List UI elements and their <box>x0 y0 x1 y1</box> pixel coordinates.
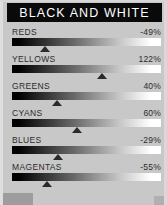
slider-label-blues: BLUES <box>12 135 42 145</box>
slider-row: CYANS60% <box>3 107 167 134</box>
slider-value-yellows[interactable]: 122% <box>138 54 161 64</box>
slider-thumb-cyans[interactable] <box>72 127 82 133</box>
slider-row: MAGENTAS-55% <box>3 161 167 188</box>
slider-value-reds[interactable]: -49% <box>140 27 161 37</box>
slider-value-magentas[interactable]: -55% <box>140 162 161 172</box>
slider-thumb-greens[interactable] <box>52 100 62 106</box>
slider-row-header: BLUES-29% <box>12 134 161 146</box>
black-and-white-adjustment-panel: BLACK AND WHITE REDS-49%YELLOWS122%GREEN… <box>0 0 167 205</box>
slider-track-cyans[interactable] <box>12 119 161 127</box>
slider-label-magentas: MAGENTAS <box>12 162 62 172</box>
slider-track-yellows[interactable] <box>12 65 161 73</box>
slider-label-yellows: YELLOWS <box>12 54 56 64</box>
slider-track-magentas[interactable] <box>12 173 161 181</box>
slider-thumb-reds[interactable] <box>40 46 50 52</box>
panel-header: BLACK AND WHITE <box>7 3 162 22</box>
slider-row: YELLOWS122% <box>3 53 167 80</box>
slider-row-header: REDS-49% <box>12 26 161 38</box>
slider-row-header: MAGENTAS-55% <box>12 161 161 173</box>
slider-row: REDS-49% <box>3 26 167 53</box>
panel-title: BLACK AND WHITE <box>19 6 149 20</box>
slider-thumb-magentas[interactable] <box>42 181 52 187</box>
slider-row-header: YELLOWS122% <box>12 53 161 65</box>
slider-label-reds: REDS <box>12 27 37 37</box>
slider-label-greens: GREENS <box>12 81 50 91</box>
slider-value-cyans[interactable]: 60% <box>143 108 161 118</box>
slider-track-greens[interactable] <box>12 92 161 100</box>
slider-thumb-blues[interactable] <box>53 154 63 160</box>
bottom-right-edge-strip <box>154 196 164 205</box>
slider-list: REDS-49%YELLOWS122%GREENS40%CYANS60%BLUE… <box>3 26 167 188</box>
slider-label-cyans: CYANS <box>12 108 42 118</box>
slider-row-header: GREENS40% <box>12 80 161 92</box>
slider-row-header: CYANS60% <box>12 107 161 119</box>
slider-track-reds[interactable] <box>12 38 161 46</box>
slider-value-blues[interactable]: -29% <box>140 135 161 145</box>
slider-track-blues[interactable] <box>12 146 161 154</box>
slider-thumb-yellows[interactable] <box>97 73 107 79</box>
slider-value-greens[interactable]: 40% <box>143 81 161 91</box>
slider-row: BLUES-29% <box>3 134 167 161</box>
bottom-edge-strip <box>3 193 33 205</box>
slider-row: GREENS40% <box>3 80 167 107</box>
